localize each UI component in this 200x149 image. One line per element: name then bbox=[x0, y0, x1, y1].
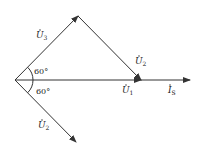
label-u2-top: U2 bbox=[135, 56, 147, 67]
label-u1: U1 bbox=[122, 85, 133, 96]
label-u3: U3 bbox=[36, 30, 48, 41]
angle-arc-upper bbox=[28, 67, 33, 80]
angle-label-lower: 60° bbox=[36, 87, 50, 96]
label-is: IS bbox=[167, 85, 176, 96]
label-u2-bottom: U2 bbox=[38, 120, 50, 131]
angle-arc-lower bbox=[28, 80, 33, 93]
angle-label-upper: 60° bbox=[34, 67, 48, 76]
phasor-diagram: U3 U2 U1 IS U2 60° 60° bbox=[0, 0, 200, 149]
phasor-u2-top bbox=[78, 16, 141, 80]
